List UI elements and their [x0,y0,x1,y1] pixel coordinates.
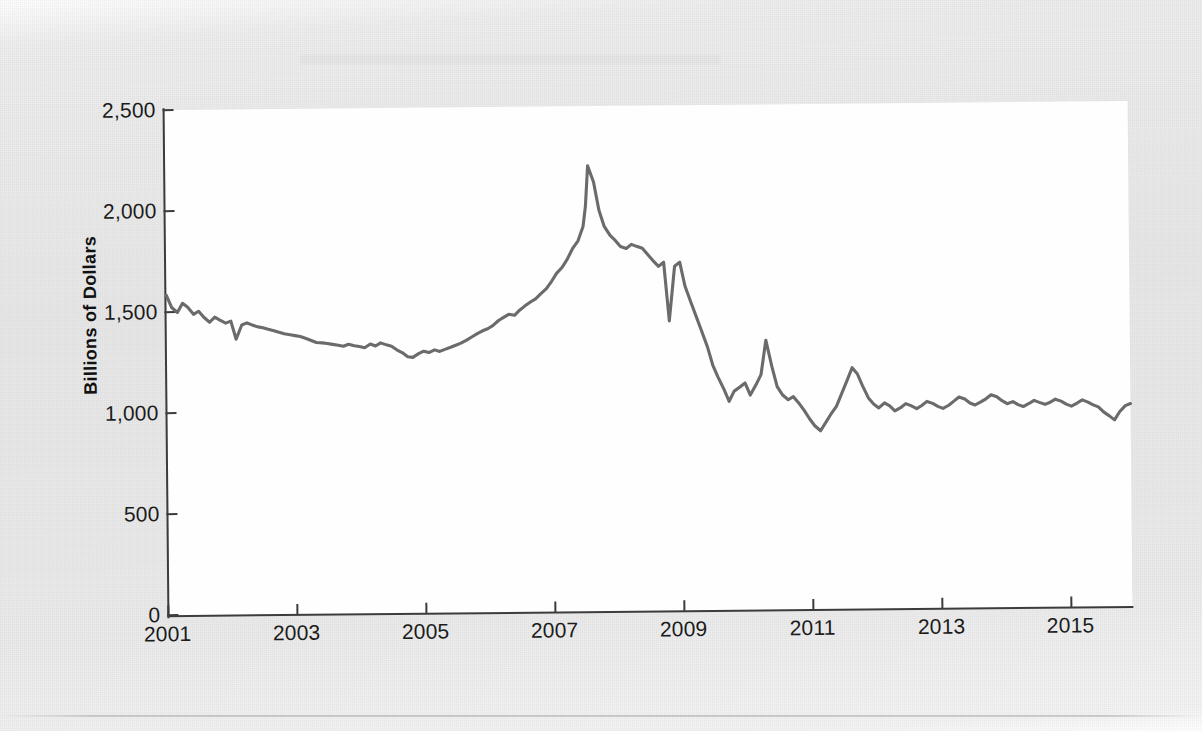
series-line-outstanding [165,161,1131,437]
line-chart-figure: 2,500 2,000 1,500 1,000 500 0 2001 2003 … [0,0,1202,731]
data-series-svg [0,0,1202,731]
page-bottom-edge [0,715,1202,717]
